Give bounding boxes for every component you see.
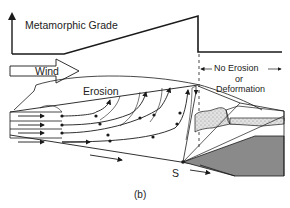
return-flow-arrow bbox=[14, 85, 36, 110]
point-s-dot bbox=[181, 160, 185, 164]
stippled-flat-unit bbox=[230, 118, 284, 126]
panel-label: (b) bbox=[134, 190, 146, 200]
stippled-folded-unit bbox=[195, 108, 230, 132]
basement-dark-unit bbox=[183, 136, 284, 176]
or-label: or bbox=[235, 75, 243, 84]
decollement-line bbox=[10, 135, 200, 165]
no-erosion-label: No Erosion bbox=[214, 64, 259, 73]
wind-label: Wind bbox=[35, 66, 59, 77]
particle-dots bbox=[60, 111, 181, 142]
point-s-label: S bbox=[172, 168, 179, 179]
deformation-label: Deformation bbox=[216, 85, 265, 94]
diagram-graphics bbox=[0, 0, 290, 208]
s-motion-arrow bbox=[190, 170, 210, 173]
geologic-block bbox=[181, 86, 284, 176]
diagram-figure: Metamorphic Grade Wind Erosion No Erosio… bbox=[0, 0, 290, 208]
metamorphic-grade-label: Metamorphic Grade bbox=[25, 20, 118, 31]
y-axis-arrowhead-icon bbox=[8, 12, 16, 20]
erosion-label: Erosion bbox=[83, 86, 119, 97]
